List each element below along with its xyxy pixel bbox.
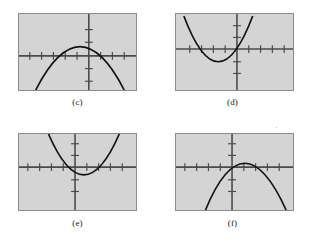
- plot-svg-d: [176, 14, 293, 90]
- figure-grid: (c): [0, 0, 310, 241]
- plot-frame-f: [175, 133, 294, 211]
- plot-svg-e: [19, 134, 136, 210]
- panel-label-d: (d): [155, 97, 310, 107]
- panel-e: (e): [0, 120, 155, 241]
- panel-label-c: (c): [0, 97, 155, 107]
- panel-label-e: (e): [0, 218, 155, 228]
- panel-label-f: (f): [155, 218, 310, 228]
- plot-frame-d: [175, 13, 294, 91]
- plot-frame-c: [18, 13, 137, 91]
- panel-f: (f): [155, 120, 310, 241]
- parabola-curve-c: [36, 47, 124, 90]
- parabola-curve-d: [184, 16, 253, 62]
- plot-frame-e: [18, 133, 137, 211]
- panel-c: (c): [0, 0, 155, 120]
- scan-speck: [276, 127, 277, 128]
- panel-d: (d): [155, 0, 310, 120]
- parabola-curve-f: [205, 163, 286, 210]
- parabola-curve-e: [48, 134, 119, 175]
- plot-svg-f: [176, 134, 293, 210]
- plot-svg-c: [19, 14, 136, 90]
